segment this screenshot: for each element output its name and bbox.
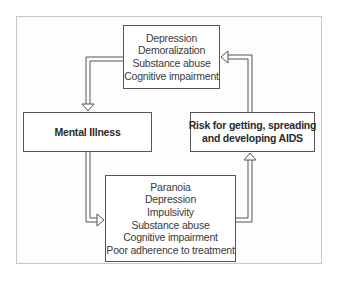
node-text: Risk for getting, spreading [189, 119, 317, 132]
node-symptoms-top: Depression Demoralization Substance abus… [123, 25, 220, 89]
node-text: Depression [146, 32, 197, 45]
node-text: Substance abuse [132, 57, 210, 70]
node-text: Depression [145, 193, 196, 206]
node-text: Cognitive impairment [124, 70, 219, 83]
node-text: Poor adherence to treatment [106, 244, 234, 257]
node-aids-risk: Risk for getting, spreading and developi… [190, 112, 315, 152]
node-symptoms-bottom: Paranoia Depression Impulsivity Substanc… [105, 175, 236, 262]
node-text: Mental Illness [54, 126, 120, 139]
arrow-top-to-left-icon [82, 57, 123, 111]
node-text: Substance abuse [131, 219, 209, 232]
node-text: and developing AIDS [202, 132, 303, 145]
node-text: Paranoia [150, 181, 190, 194]
arrow-right-to-top-icon [221, 51, 252, 112]
node-text: Cognitive impairment [123, 231, 218, 244]
arrow-left-to-bottom-icon [86, 152, 104, 226]
node-mental-illness: Mental Illness [23, 112, 152, 152]
node-text: Demoralization [138, 44, 205, 57]
node-text: Impulsivity [147, 206, 194, 219]
arrow-bottom-to-right-icon [236, 153, 256, 222]
